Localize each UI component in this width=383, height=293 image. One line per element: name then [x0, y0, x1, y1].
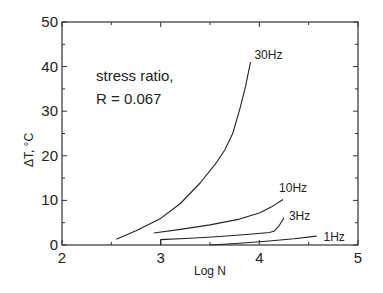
series-label: 1Hz	[323, 230, 344, 244]
annotation-line-1: stress ratio,	[96, 67, 174, 84]
series-label: 30Hz	[254, 48, 282, 62]
x-tick-label: 5	[354, 249, 362, 266]
x-tick-label: 3	[156, 249, 164, 266]
annotation-line-2: R = 0.067	[96, 90, 161, 107]
y-tick-label: 30	[41, 102, 58, 119]
y-tick-label: 40	[41, 58, 58, 75]
series-10hz-line	[154, 200, 283, 234]
x-axis-label: Log N	[194, 264, 226, 278]
y-tick-label: 20	[41, 147, 58, 164]
x-tick-label: 2	[58, 249, 66, 266]
axes	[62, 22, 358, 245]
series-label: 10Hz	[279, 181, 307, 195]
y-tick-label: 50	[41, 13, 58, 30]
series-labels: 30Hz10Hz3Hz1Hz	[254, 48, 344, 244]
y-tick-label: 10	[41, 191, 58, 208]
axis-ticks: 234501020304050	[41, 13, 362, 266]
line-chart: 234501020304050 30Hz10Hz3Hz1Hz stress ra…	[0, 0, 383, 293]
series-30hz-line	[116, 62, 250, 239]
plot-frame	[62, 22, 358, 245]
series-label: 3Hz	[289, 209, 310, 223]
y-axis-label: ΔT, °C	[22, 133, 36, 167]
x-tick-label: 4	[255, 249, 263, 266]
y-tick-label: 0	[50, 236, 58, 253]
series-1hz-line	[210, 236, 317, 245]
chart-container: 234501020304050 30Hz10Hz3Hz1Hz stress ra…	[0, 0, 383, 293]
